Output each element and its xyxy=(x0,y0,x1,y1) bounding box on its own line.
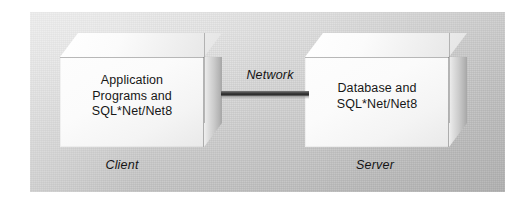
client-box-edge-back xyxy=(204,33,205,123)
server-box-label: Database and SQL*Net/Net8 xyxy=(305,81,449,112)
server-box-side-face xyxy=(449,57,467,147)
network-connector-shadow xyxy=(221,96,309,99)
client-box-edge-top xyxy=(60,57,204,58)
caption-server: Server xyxy=(325,158,425,172)
client-box-label: Application Programs and SQL*Net/Net8 xyxy=(60,73,204,120)
caption-client: Client xyxy=(72,158,172,172)
server-box-edge-top xyxy=(305,57,449,58)
network-connector-label: Network xyxy=(228,68,312,82)
server-box-edge-back xyxy=(449,33,450,123)
client-box-side-face xyxy=(204,57,222,147)
figure-client-server-diagram: Application Programs and SQL*Net/Net8 Da… xyxy=(0,0,530,206)
